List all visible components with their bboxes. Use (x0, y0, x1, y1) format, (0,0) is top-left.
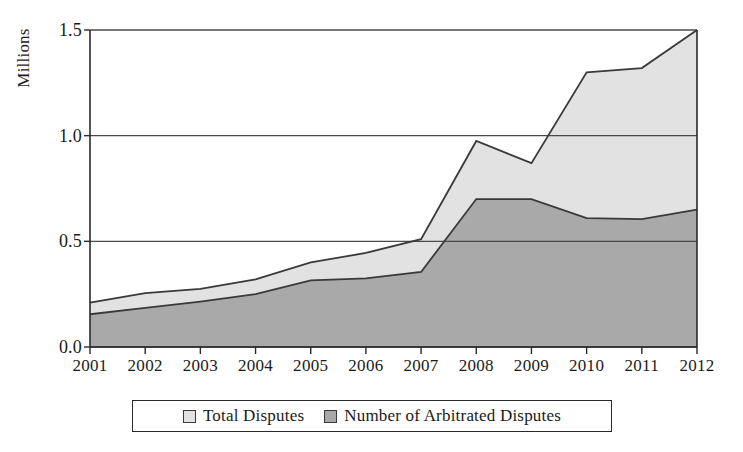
area-chart: Millions 0.00.51.01.5 200120022003200420… (0, 0, 743, 452)
legend-item[interactable]: Total Disputes (183, 406, 304, 426)
x-axis-tick-label: 2011 (612, 356, 672, 376)
x-axis-tick-label: 2006 (336, 356, 396, 376)
chart-legend: Total DisputesNumber of Arbitrated Dispu… (132, 400, 612, 432)
legend-item[interactable]: Number of Arbitrated Disputes (324, 406, 561, 426)
x-axis-tick-label: 2002 (115, 356, 175, 376)
chart-plot-area (0, 0, 743, 452)
x-axis-tick-label: 2003 (170, 356, 230, 376)
x-axis-tick-label: 2005 (281, 356, 341, 376)
x-axis-tick-label: 2008 (446, 356, 506, 376)
legend-swatch-icon (183, 410, 196, 423)
x-axis-tick-label: 2001 (60, 356, 120, 376)
x-axis-tick-label: 2009 (501, 356, 561, 376)
legend-swatch-icon (324, 410, 337, 423)
x-axis-tick-label: 2007 (391, 356, 451, 376)
x-axis-tick-label: 2004 (226, 356, 286, 376)
legend-item-label: Total Disputes (203, 406, 304, 426)
x-axis-tick-label: 2010 (557, 356, 617, 376)
x-axis-tick-label: 2012 (667, 356, 727, 376)
legend-item-label: Number of Arbitrated Disputes (344, 406, 561, 426)
